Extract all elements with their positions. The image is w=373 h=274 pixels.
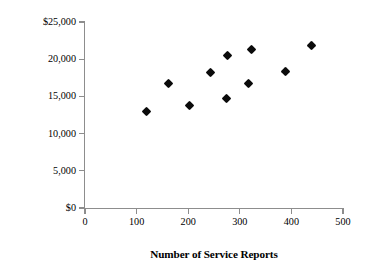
x-axis-tick (84, 209, 85, 214)
x-axis-tick (291, 209, 292, 214)
x-axis-tick-label: 200 (168, 216, 208, 227)
plot-area (85, 22, 343, 208)
x-axis-tick (188, 209, 189, 214)
x-axis-tick-label: 100 (117, 216, 157, 227)
y-axis-tick-labels: $05,00010,00015,00020,000$25,000 (16, 0, 76, 274)
x-axis-tick (342, 209, 343, 214)
y-axis-tick-label: $0 (18, 202, 76, 213)
x-axis-tick-label: 0 (65, 216, 105, 227)
x-axis-title: Number of Service Reports (85, 248, 343, 261)
y-axis-tick-label: 20,000 (18, 53, 76, 64)
x-axis-tick-label: 500 (323, 216, 363, 227)
y-axis-tick-label: 5,000 (18, 165, 76, 176)
x-axis-tick (239, 209, 240, 214)
scatter-chart-figure: Customer-Service Department Costs $05,00… (0, 0, 373, 274)
x-axis-tick-label: 300 (220, 216, 260, 227)
y-axis-tick-label: 15,000 (18, 90, 76, 101)
x-axis-tick-label: 400 (271, 216, 311, 227)
y-axis-tick-label: $25,000 (18, 16, 76, 27)
y-axis-tick-label: 10,000 (18, 128, 76, 139)
x-axis-tick (136, 209, 137, 214)
